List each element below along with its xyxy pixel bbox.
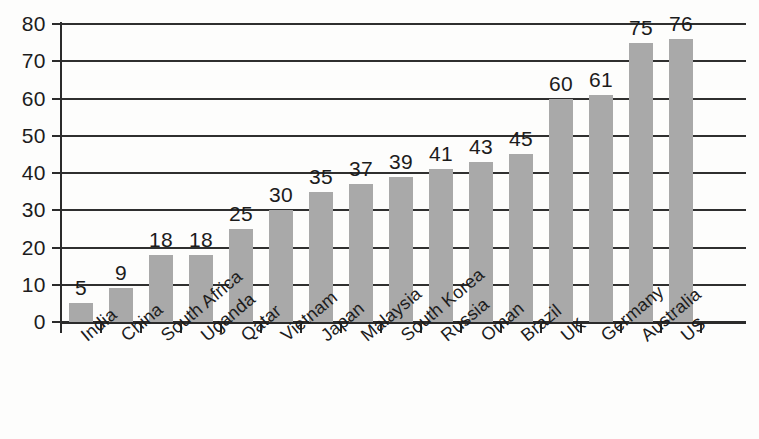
bar: [629, 43, 653, 322]
y-axis-tick-label: 80: [0, 12, 46, 36]
bar-value-label: 45: [495, 127, 547, 151]
bar-value-label: 9: [95, 261, 147, 285]
y-axis-tick-label: 30: [0, 198, 46, 222]
y-axis-tick-label: 50: [0, 124, 46, 148]
bar: [669, 39, 693, 322]
bar-chart: 01020304050607080 IndiaChinaSouth Africa…: [0, 0, 759, 439]
bar-value-label: 76: [655, 12, 707, 36]
bar-value-label: 61: [575, 68, 627, 92]
bar: [509, 154, 533, 322]
bar: [549, 99, 573, 323]
bar-value-label: 18: [175, 228, 227, 252]
y-axis-tick-label: 10: [0, 273, 46, 297]
y-axis-tick-label: 60: [0, 87, 46, 111]
y-axis-tick-label: 0: [0, 310, 46, 334]
y-axis-tick-label: 40: [0, 161, 46, 185]
y-axis-tick-label: 20: [0, 236, 46, 260]
y-axis-tick-label: 70: [0, 49, 46, 73]
x-axis-tick: [60, 324, 62, 333]
bar: [589, 95, 613, 322]
